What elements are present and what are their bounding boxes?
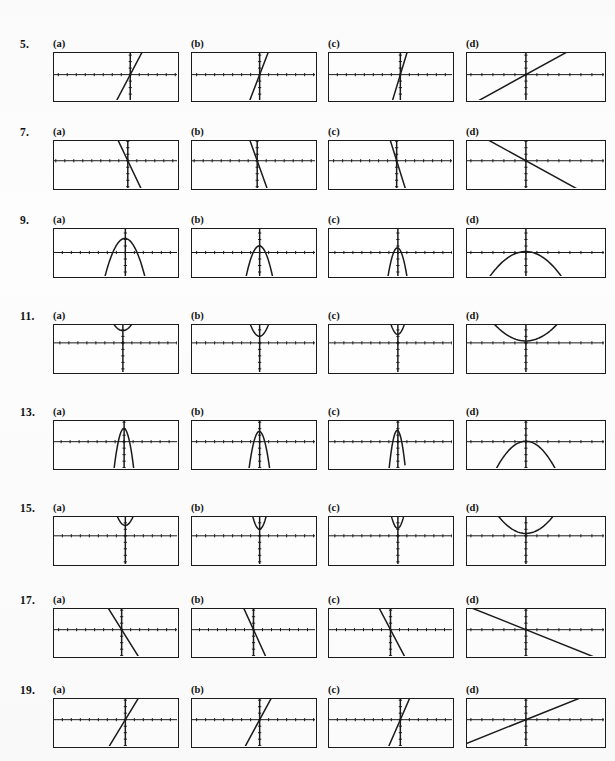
calculator-screen[interactable] [191, 698, 317, 748]
graph-panel-label: (d) [466, 406, 479, 417]
calculator-screen[interactable] [328, 420, 454, 470]
graph-curve [467, 53, 604, 100]
graph-panel[interactable]: (c) [328, 684, 454, 750]
graph-panel[interactable]: (a) [53, 310, 179, 376]
axes [192, 53, 315, 100]
calculator-screen[interactable] [466, 228, 606, 278]
graph-panel[interactable]: (c) [328, 406, 454, 472]
calculator-screen[interactable] [466, 608, 606, 658]
graph-panel[interactable]: (b) [191, 310, 317, 376]
calculator-screen[interactable] [191, 324, 317, 374]
graph-panel[interactable]: (d) [466, 126, 606, 192]
calculator-screen[interactable] [53, 52, 179, 102]
calculator-screen[interactable] [466, 324, 606, 374]
graph-panel[interactable]: (c) [328, 594, 454, 660]
calculator-screen[interactable] [328, 324, 454, 374]
calculator-screen[interactable] [466, 420, 606, 470]
axes [54, 229, 177, 276]
graph-panel[interactable]: (b) [191, 126, 317, 192]
exercise-number: 9. [20, 214, 29, 226]
graph-panel[interactable]: (d) [466, 502, 606, 568]
calculator-screen[interactable] [328, 228, 454, 278]
calculator-screen[interactable] [191, 52, 317, 102]
calculator-screen[interactable] [191, 228, 317, 278]
calculator-screen[interactable] [53, 698, 179, 748]
graph-panel[interactable]: (b) [191, 38, 317, 104]
graph-panel[interactable]: (d) [466, 310, 606, 376]
axes [54, 699, 177, 746]
graph-panel[interactable]: (a) [53, 502, 179, 568]
axes [192, 517, 315, 564]
graph-panel[interactable]: (c) [328, 38, 454, 104]
axes [54, 325, 177, 372]
graph-panel[interactable]: (d) [466, 38, 606, 104]
calculator-screen[interactable] [191, 516, 317, 566]
axes [329, 141, 452, 188]
graph-panel-label: (d) [466, 214, 479, 225]
graph-panel-label: (a) [53, 684, 65, 695]
calculator-screen[interactable] [328, 516, 454, 566]
graph-panel[interactable]: (b) [191, 214, 317, 280]
graph-panel-label: (a) [53, 406, 65, 417]
graph-panel[interactable]: (a) [53, 406, 179, 472]
calculator-screen[interactable] [53, 608, 179, 658]
graph-panel[interactable]: (b) [191, 502, 317, 568]
graph-panel[interactable]: (a) [53, 684, 179, 750]
exercise-number: 7. [20, 126, 29, 138]
graph-panel[interactable]: (c) [328, 502, 454, 568]
calculator-screen[interactable] [466, 140, 606, 190]
graph-panel[interactable]: (c) [328, 126, 454, 192]
graph-panel[interactable]: (d) [466, 594, 606, 660]
calculator-screen[interactable] [328, 140, 454, 190]
calculator-screen[interactable] [53, 140, 179, 190]
calculator-screen[interactable] [466, 52, 606, 102]
exercise-row: 11.(a)(b)(c)(d) [0, 310, 615, 396]
calculator-screen[interactable] [53, 228, 179, 278]
graph-panel-label: (a) [53, 310, 65, 321]
axes [329, 325, 452, 372]
calculator-screen[interactable] [191, 420, 317, 470]
graph-panel[interactable]: (b) [191, 406, 317, 472]
graph-panel-label: (a) [53, 594, 65, 605]
calculator-screen[interactable] [53, 420, 179, 470]
calculator-screen[interactable] [466, 516, 606, 566]
calculator-screen[interactable] [328, 52, 454, 102]
calculator-screen[interactable] [191, 608, 317, 658]
graph-curve [467, 141, 604, 188]
graph-panel-label: (d) [466, 502, 479, 513]
axes [192, 609, 315, 656]
graph-panel[interactable]: (a) [53, 214, 179, 280]
graph-panel[interactable]: (a) [53, 38, 179, 104]
graph-panel[interactable]: (d) [466, 406, 606, 472]
graph-panel-label: (a) [53, 214, 65, 225]
calculator-screen[interactable] [191, 140, 317, 190]
graph-panel-label: (d) [466, 684, 479, 695]
calculator-screen[interactable] [53, 516, 179, 566]
calculator-screen[interactable] [328, 608, 454, 658]
graph-panel-label: (b) [191, 38, 204, 49]
graph-curve [192, 53, 315, 100]
exercise-number: 5. [20, 38, 29, 50]
exercise-number: 15. [20, 502, 35, 514]
graph-panel[interactable]: (a) [53, 594, 179, 660]
graph-curve [192, 141, 315, 188]
calculator-screen[interactable] [466, 698, 606, 748]
graph-panel[interactable]: (b) [191, 594, 317, 660]
graph-curve [329, 699, 452, 746]
calculator-screen[interactable] [328, 698, 454, 748]
graph-curve [329, 53, 452, 100]
graph-panel[interactable]: (c) [328, 310, 454, 376]
graph-curve [389, 430, 405, 468]
graph-curve [54, 141, 177, 188]
exercise-number: 11. [20, 310, 35, 322]
axes [329, 229, 452, 276]
graph-panel-label: (b) [191, 502, 204, 513]
graph-panel[interactable]: (a) [53, 126, 179, 192]
graph-panel[interactable]: (d) [466, 684, 606, 750]
graph-panel-label: (b) [191, 310, 204, 321]
graph-panel[interactable]: (b) [191, 684, 317, 750]
graph-panel-label: (d) [466, 126, 479, 137]
graph-panel[interactable]: (d) [466, 214, 606, 280]
graph-panel[interactable]: (c) [328, 214, 454, 280]
calculator-screen[interactable] [53, 324, 179, 374]
